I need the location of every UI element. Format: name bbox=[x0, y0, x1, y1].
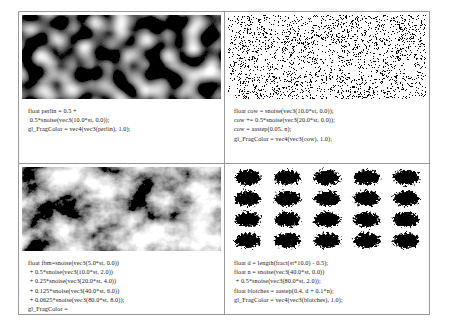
perlin-code-block: float perlin = 0.5 + 0.5*snoise(vec3(10.… bbox=[22, 99, 221, 161]
code-line: 0.5*snoise(vec3(10.0*st, 0.0)); bbox=[28, 115, 215, 124]
code-line: gl_FragColor = vec4(vec3(blotches), 1.0)… bbox=[234, 295, 420, 304]
code-line: + 0.5*snoise(vec3(10.0*st, 2.0)) bbox=[28, 267, 215, 276]
code-line: + 0.5*snoise(vec3(80.0*st, 2.0)); bbox=[234, 276, 420, 285]
fbm-noise-svg bbox=[22, 167, 221, 251]
code-line: float n = snoise(vec3(40.0*st, 0.0)) bbox=[234, 267, 420, 276]
code-line: cow = aastep(0.05, n); bbox=[234, 124, 420, 133]
code-line: gl_FragColor = bbox=[28, 304, 215, 313]
code-line: gl_FragColor = vec4(vec3(perlin), 1.0); bbox=[28, 124, 215, 133]
blotches-svg bbox=[228, 167, 426, 251]
code-line: cow += 0.5*snoise(vec3(20.0*st, 0.0)); bbox=[234, 115, 420, 124]
blotches-panel: float d = length(fract(st*10.0) - 0.5);f… bbox=[224, 163, 429, 314]
blotches-code-block: float d = length(fract(st*10.0) - 0.5);f… bbox=[228, 251, 426, 312]
code-line: + 0.125*snoise(vec3(40.0*st, 6.0)) bbox=[28, 286, 215, 295]
blotches-texture bbox=[228, 167, 426, 251]
cow-pattern-panel: float cow = snoise(vec3(10.0*st, 0.0));c… bbox=[224, 12, 429, 163]
perlin-noise-texture bbox=[22, 15, 221, 99]
fbm-noise-panel: float fbm=snoise(vec3(5.0*st, 0.0)) + 0.… bbox=[19, 163, 224, 314]
code-line: + 0.0625*snoise(vec3(80.0*st, 8.0)); bbox=[28, 295, 215, 304]
cow-pattern-texture bbox=[228, 15, 426, 99]
code-line: float perlin = 0.5 + bbox=[28, 106, 215, 115]
code-line: float d = length(fract(st*10.0) - 0.5); bbox=[234, 258, 420, 267]
cow-code-block: float cow = snoise(vec3(10.0*st, 0.0));c… bbox=[228, 99, 426, 161]
noise-examples-figure: float perlin = 0.5 + 0.5*snoise(vec3(10.… bbox=[18, 11, 430, 315]
cow-pattern-svg bbox=[228, 15, 426, 99]
code-line: + 0.25*snoise(vec3(20.0*st, 4.0)) bbox=[28, 276, 215, 285]
fbm-noise-texture bbox=[22, 167, 221, 251]
code-line: float blotches = aastep(0.4, d + 0.1*n); bbox=[234, 286, 420, 295]
perlin-noise-svg bbox=[22, 15, 221, 99]
code-line: float fbm=snoise(vec3(5.0*st, 0.0)) bbox=[28, 258, 215, 267]
perlin-noise-panel: float perlin = 0.5 + 0.5*snoise(vec3(10.… bbox=[19, 12, 224, 163]
code-line: vec4(0.4*vec3(fbm) + 0.5, 1.0); bbox=[28, 313, 215, 314]
code-line: gl_FragColor = vec4(vec3(cow), 1.0); bbox=[234, 134, 420, 143]
code-line: float cow = snoise(vec3(10.0*st, 0.0)); bbox=[234, 106, 420, 115]
fbm-code-block: float fbm=snoise(vec3(5.0*st, 0.0)) + 0.… bbox=[22, 251, 221, 314]
